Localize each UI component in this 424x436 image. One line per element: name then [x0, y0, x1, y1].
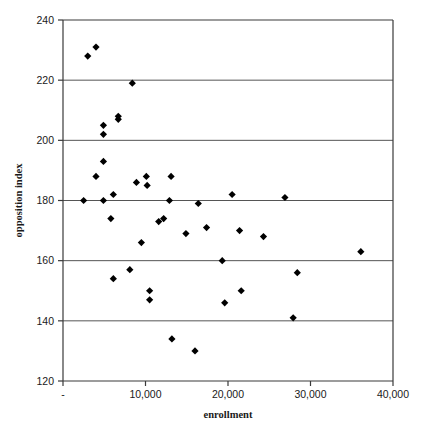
y-tick-label-180: 180: [36, 194, 54, 206]
x-axis-title: enrollment: [204, 409, 253, 420]
x-tick-label-20000: 20,000: [212, 388, 244, 400]
y-tick-label-120: 120: [36, 375, 54, 387]
chart-canvas: 120140160180200220240 -10,00020,00030,00…: [0, 0, 424, 436]
x-tick-label-40000: 40,000: [377, 388, 409, 400]
scatter-plot-figure: 120140160180200220240 -10,00020,00030,00…: [0, 0, 424, 436]
x-tick-label-30000: 30,000: [294, 388, 326, 400]
y-tick-label-220: 220: [36, 74, 54, 86]
x-tick-label-10000: 10,000: [129, 388, 161, 400]
y-axis-title: opposition index: [13, 163, 24, 238]
y-tick-label-160: 160: [36, 254, 54, 266]
y-tick-label-240: 240: [36, 14, 54, 26]
x-tick-label-0: -: [61, 388, 65, 400]
y-tick-label-140: 140: [36, 315, 54, 327]
y-tick-label-200: 200: [36, 134, 54, 146]
